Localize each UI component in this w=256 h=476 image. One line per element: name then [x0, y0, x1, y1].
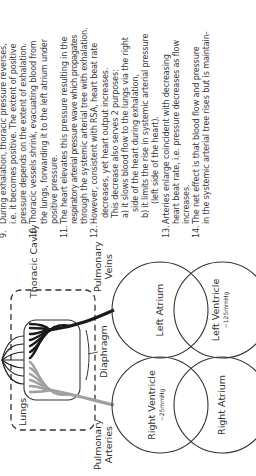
- diaphragm-line: [86, 330, 89, 380]
- left-ventricle-pressure: ~125mmHg: [222, 262, 230, 358]
- step-12-sub-b: b) it limits the rise in systemic arteri…: [140, 2, 160, 224]
- step-9: 9. During exhalation, thoracic pressure …: [0, 2, 28, 238]
- right-atrium-circle: [174, 357, 256, 453]
- step-12-sub-a: a) it slows blood flow to the lungs via …: [120, 2, 140, 224]
- diaphragm-label: Diaphragm: [98, 325, 109, 378]
- right-atrium-label: Right Atrium: [216, 357, 227, 453]
- step-12: 12. However, consistent with RSA, heart …: [89, 2, 160, 238]
- diaphragm-pointer: [88, 352, 98, 354]
- step-11: 11. The heart elevates this pressure res…: [59, 2, 89, 238]
- left-atrium-label: Left Atrium: [154, 262, 165, 358]
- step-13: 13. Arteries enlarge coincident with dec…: [161, 2, 191, 238]
- lung-lobes-icon: [2, 336, 24, 384]
- rotated-page: Thoracic Cavity Lungs Diaphragm Pulmonar…: [0, 0, 256, 476]
- right-ventricle-label: Right Ventricle: [146, 357, 157, 453]
- step-14: 14. The net effect is that blood flow an…: [191, 2, 211, 238]
- lungs-outline: [24, 320, 80, 400]
- pulmonary-arteries-label: Pulmonary Arteries: [92, 419, 114, 470]
- heart-lung-diagram: Thoracic Cavity Lungs Diaphragm Pulmonar…: [0, 238, 256, 476]
- lungs-label: Lungs: [17, 398, 28, 426]
- step-10: 10. Thoracic vessels shrink, evacuating …: [28, 2, 58, 238]
- pulmonary-veins-label: Pulmonary Veins: [92, 241, 114, 292]
- right-ventricle-pressure: ~25mmHg: [158, 357, 166, 453]
- left-ventricle-label: Left Ventricle: [210, 262, 221, 358]
- steps-text: 9. During exhalation, thoracic pressure …: [0, 2, 256, 238]
